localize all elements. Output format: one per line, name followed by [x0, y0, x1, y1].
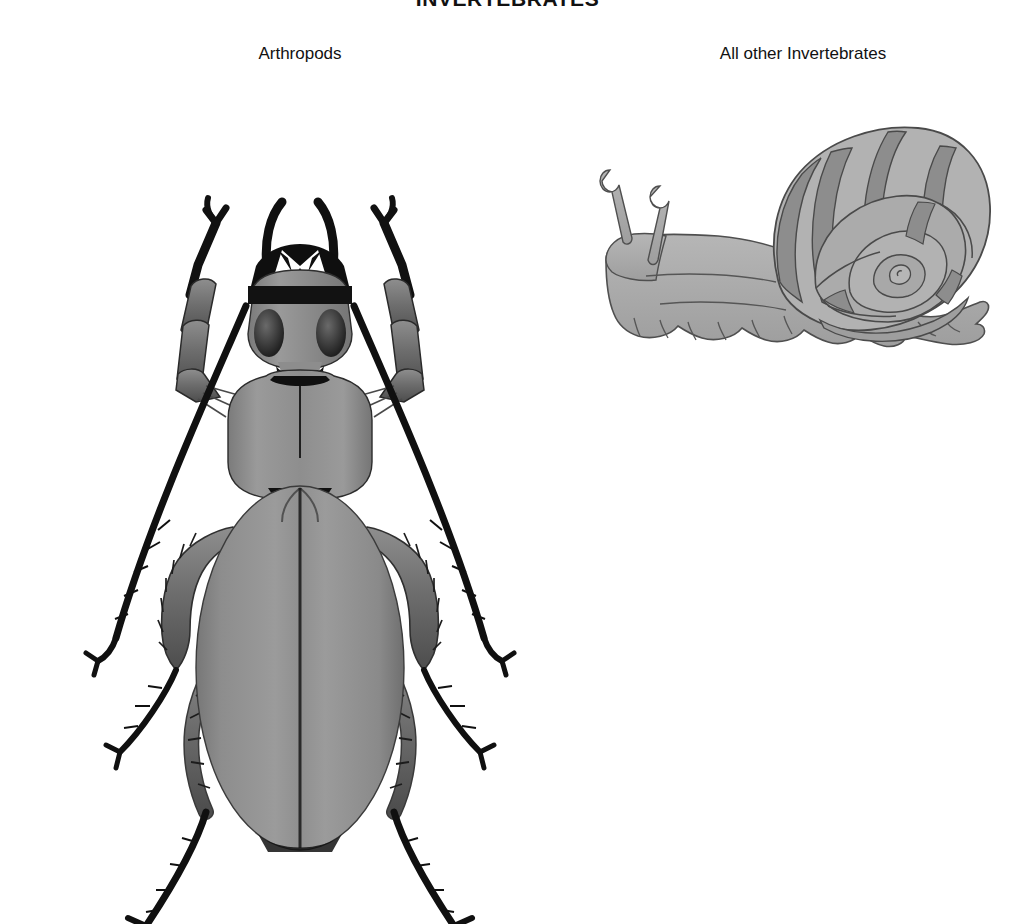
label-arthropods: Arthropods — [180, 44, 420, 64]
snail-tentacle-upper-left — [600, 170, 632, 244]
beetle-eye-right — [316, 309, 346, 357]
beetle-front-right-leg — [362, 198, 424, 417]
illustration-canvas: INVERTEBRATES Arthropods All other Inver… — [0, 0, 1015, 924]
beetle-front-left-leg — [176, 198, 238, 417]
beetle-pronotum — [228, 370, 372, 498]
label-all-other-invertebrates: All other Invertebrates — [683, 44, 923, 64]
snail-shell-apex — [890, 265, 911, 284]
beetle-elytra — [196, 486, 404, 850]
snail-illustration — [588, 110, 998, 370]
beetle-head — [248, 202, 352, 386]
page-title: INVERTEBRATES — [0, 0, 1015, 11]
snail-shell — [774, 127, 990, 341]
beetle-eye-left — [254, 309, 284, 357]
beetle-illustration — [20, 90, 580, 900]
